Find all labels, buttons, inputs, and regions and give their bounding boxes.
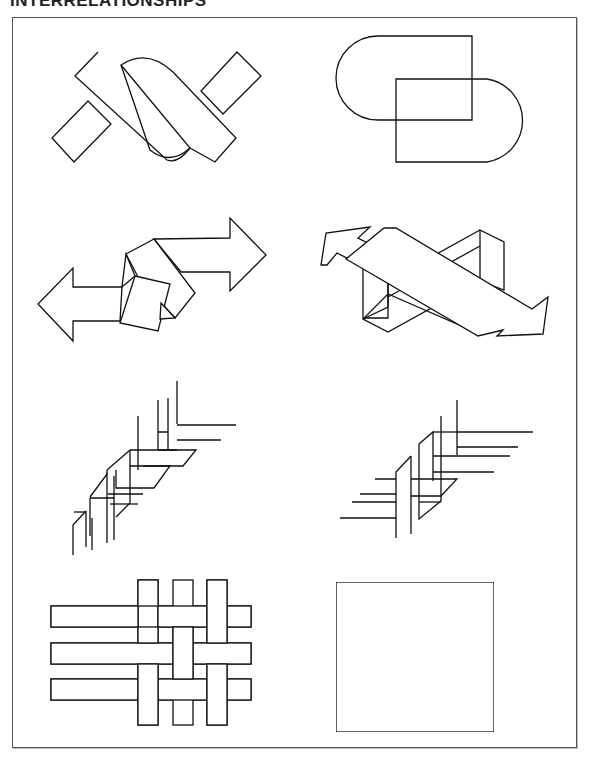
figure-3-knotted-arrows xyxy=(38,218,266,341)
figure-2-overlapping-stadiums xyxy=(336,36,523,162)
figure-1-interlocked-bars xyxy=(52,52,261,162)
figure-5-braided-steps xyxy=(73,381,236,555)
figure-6-braided-steps-right xyxy=(340,400,533,538)
illustration-canvas xyxy=(0,0,592,760)
figure-4-crossing-3d-arrows xyxy=(321,227,548,336)
figure-8-herringbone-weave xyxy=(336,582,494,732)
figure-7-basket-weave xyxy=(51,580,251,725)
